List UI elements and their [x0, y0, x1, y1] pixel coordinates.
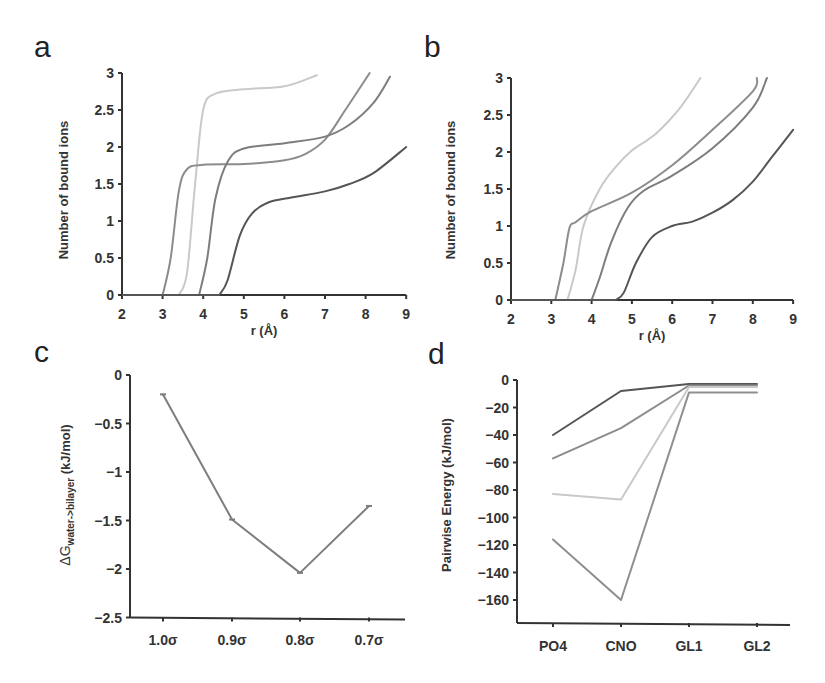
panel-label-d: d [428, 337, 445, 370]
panel-c-ylabel: ΔGwater->bilayer (kJ/mol) [57, 424, 76, 565]
x-tick-label: 4 [199, 306, 207, 322]
x-tick-label: CNO [605, 638, 636, 654]
figure: a b c d r (Å) r (Å) Number of bound ions… [0, 0, 825, 683]
y-tick-label: −2 [106, 561, 122, 577]
series-line-mid2 [199, 77, 390, 295]
x-tick-label: 7 [709, 311, 717, 327]
panel-label-c: c [34, 335, 49, 368]
x-tick-label: 9 [789, 311, 797, 327]
panel-label-b: b [424, 30, 441, 63]
x-tick-label: GL1 [675, 638, 702, 654]
panel-a-plot: 00.511.522.5323456789 [95, 65, 411, 322]
y-tick-label: −60 [485, 455, 509, 471]
series-line-mid [163, 73, 370, 295]
x-tick-label: PO4 [539, 638, 567, 654]
x-tick-label: 8 [362, 306, 370, 322]
panel-b-ylabel: Number of bound ions [443, 121, 458, 260]
y-tick-label: 0 [114, 367, 122, 383]
panel-b-xlabel: r (Å) [639, 328, 666, 343]
x-tick-label: 5 [628, 311, 636, 327]
x-tick-label: 9 [402, 306, 410, 322]
y-tick-label: −160 [477, 592, 509, 608]
x-tick-label: GL2 [743, 638, 770, 654]
panel-a-ylabel: Number of bound ions [56, 121, 71, 260]
panel-c-plot: 0−0.5−1−1.5−2−2.51.0σ0.9σ0.8σ0.7σ [94, 367, 405, 648]
y-tick-label: −40 [485, 427, 509, 443]
y-tick-label: 2 [495, 144, 503, 160]
y-tick-label: 3 [495, 70, 503, 86]
y-tick-label: 0 [106, 287, 114, 303]
y-tick-label: 0 [501, 372, 509, 388]
panel-c-ylabel-sub: water->bilayer [65, 478, 76, 547]
series-line-mid [555, 78, 757, 300]
y-tick-label: 1.5 [95, 176, 115, 192]
panel-label-a: a [34, 30, 51, 63]
y-tick-label: −120 [477, 537, 509, 553]
y-tick-label: −140 [477, 565, 509, 581]
y-tick-label: −1.5 [94, 513, 122, 529]
x-tick-label: 6 [668, 311, 676, 327]
x-tick-label: 3 [159, 306, 167, 322]
y-tick-label: 2.5 [484, 107, 504, 123]
x-tick-label: 2 [118, 306, 126, 322]
x-axis [130, 618, 405, 620]
panel-d-plot: 0−20−40−60−80−100−120−140−160PO4CNOGL1GL… [477, 372, 790, 654]
y-tick-label: 1 [106, 213, 114, 229]
x-tick-label: 3 [547, 311, 555, 327]
y-tick-label: 2.5 [95, 102, 115, 118]
x-tick-label: 0.9σ [217, 632, 246, 648]
panel-c-ylabel-main: ΔG [57, 545, 73, 565]
y-tick-label: 0 [495, 292, 503, 308]
x-tick-label: 7 [321, 306, 329, 322]
y-tick-label: 1.5 [484, 181, 504, 197]
y-tick-label: −2.5 [94, 610, 122, 626]
x-tick-label: 4 [588, 311, 596, 327]
y-tick-label: −100 [477, 510, 509, 526]
x-tick-label: 6 [281, 306, 289, 322]
series-line-mid2 [592, 78, 767, 300]
y-tick-label: 3 [106, 65, 114, 81]
x-tick-label: 0.8σ [285, 632, 314, 648]
panel-d-ylabel: Pairwise Energy (kJ/mol) [439, 418, 454, 572]
x-tick-label: 5 [240, 306, 248, 322]
series-line-light [179, 75, 317, 295]
x-tick-label: 0.7σ [354, 632, 383, 648]
y-tick-label: −20 [485, 400, 509, 416]
y-tick-label: −80 [485, 482, 509, 498]
panel-a-xlabel: r (Å) [251, 323, 278, 338]
y-tick-label: 2 [106, 139, 114, 155]
x-tick-label: 8 [749, 311, 757, 327]
y-tick-label: 0.5 [484, 255, 504, 271]
series-line [163, 394, 369, 573]
panel-b-plot: 00.511.522.5323456789 [484, 70, 798, 327]
y-tick-label: −1 [106, 464, 122, 480]
panel-c-ylabel-unit: (kJ/mol) [58, 424, 73, 477]
series-line-dark [219, 147, 406, 295]
series-line-mid [553, 386, 757, 459]
x-tick-label: 1.0σ [148, 632, 177, 648]
x-tick-label: 2 [507, 311, 515, 327]
y-tick-label: −0.5 [94, 416, 122, 432]
y-tick-label: 0.5 [95, 250, 115, 266]
y-tick-label: 1 [495, 218, 503, 234]
x-axis [517, 623, 790, 625]
series-line-light [553, 387, 757, 500]
